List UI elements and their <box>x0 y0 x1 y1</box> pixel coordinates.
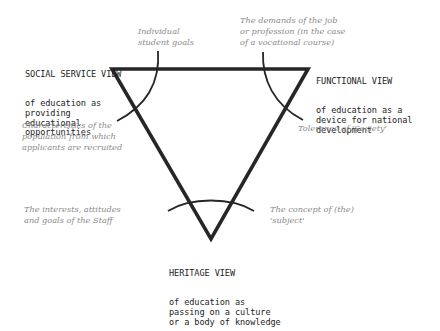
heritage-view-label: HERITAGE VIEW of education as passing on… <box>169 249 281 331</box>
arc-bottom <box>168 201 254 212</box>
factor-population-characteristics: Characteristics of the population from w… <box>22 120 122 153</box>
social-service-view-title: SOCIAL SERVICE VIEW <box>25 70 121 80</box>
functional-view-title: FUNCTIONAL VIEW <box>316 77 412 87</box>
heritage-view-description: of education as passing on a culture or … <box>169 298 281 327</box>
heritage-view-title: HERITAGE VIEW <box>169 269 281 279</box>
factor-tolerance-of-society: Tolerance of 'Society' <box>298 123 387 134</box>
factor-subject-concept: The concept of (the) 'subject' <box>270 204 354 226</box>
factor-individual-student-goals: Individual student goals <box>138 26 194 48</box>
factor-job-demands: The demands of the job or profession (in… <box>240 15 345 48</box>
factor-staff-interests: The interests, attitudes and goals of th… <box>24 204 121 226</box>
functional-view-label: FUNCTIONAL VIEW of education as a device… <box>316 57 412 155</box>
